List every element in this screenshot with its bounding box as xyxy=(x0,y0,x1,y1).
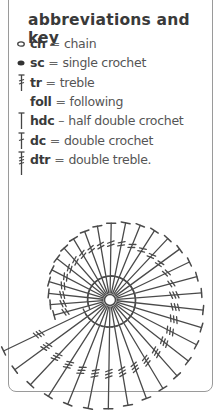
spiral-crochet-diagram xyxy=(0,0,222,410)
